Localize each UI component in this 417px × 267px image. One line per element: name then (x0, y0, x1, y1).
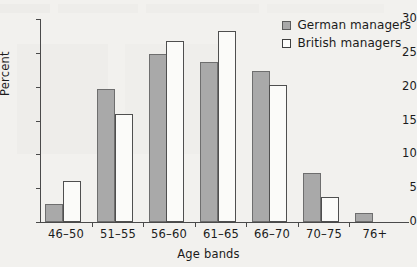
bar-british-51-55 (115, 114, 133, 222)
bar-german-61-65 (200, 62, 218, 222)
y-axis-tick-label: 5 (386, 182, 417, 193)
y-axis-title: Percent (0, 51, 12, 96)
legend-item-german: German managers (282, 17, 411, 33)
bar-british-46-50 (63, 181, 81, 222)
x-axis-tick-label: 56–60 (143, 227, 195, 241)
x-axis-tick-label: 66–70 (246, 227, 298, 241)
x-axis-line (40, 222, 409, 223)
y-axis-tick (36, 154, 40, 155)
legend-swatch-british-icon (282, 39, 291, 48)
y-axis-tick (36, 87, 40, 88)
legend-label-german: German managers (297, 18, 411, 32)
legend-item-british: British managers (282, 35, 411, 51)
bar-british-56-60 (166, 41, 184, 222)
x-axis-tick-label: 61–65 (195, 227, 247, 241)
x-axis-tick-label: 76+ (349, 227, 401, 241)
y-axis-tick (36, 53, 40, 54)
x-axis-tick-label: 51–55 (92, 227, 144, 241)
legend-label-british: British managers (297, 36, 401, 50)
y-axis-tick-label: 15 (386, 115, 417, 126)
x-axis-tick-label: 70–75 (298, 227, 350, 241)
y-axis-tick-label: 0 (386, 216, 417, 227)
y-axis-tick (36, 19, 40, 20)
legend-swatch-german-icon (282, 21, 291, 30)
bar-german-66-70 (252, 71, 270, 222)
y-axis-tick (36, 121, 40, 122)
x-axis-title: Age bands (0, 247, 417, 261)
chart-legend: German managers British managers (282, 17, 411, 53)
bar-german-46-50 (45, 204, 63, 222)
y-axis-tick-label: 20 (386, 81, 417, 92)
grouped-bar-chart: Percent 05101520253046–5051–5556–6061–65… (0, 0, 417, 267)
y-axis-tick (36, 188, 40, 189)
bar-german-56-60 (149, 54, 167, 222)
y-axis-line (40, 19, 41, 223)
bar-german-51-55 (97, 89, 115, 222)
y-axis-tick (36, 222, 40, 223)
bar-british-66-70 (269, 85, 287, 222)
x-axis-tick-label: 46–50 (40, 227, 92, 241)
bar-british-61-65 (218, 31, 236, 222)
y-axis-tick-label: 10 (386, 148, 417, 159)
bar-german-76+ (355, 213, 373, 222)
bar-british-70-75 (321, 197, 339, 222)
bar-german-70-75 (303, 173, 321, 222)
